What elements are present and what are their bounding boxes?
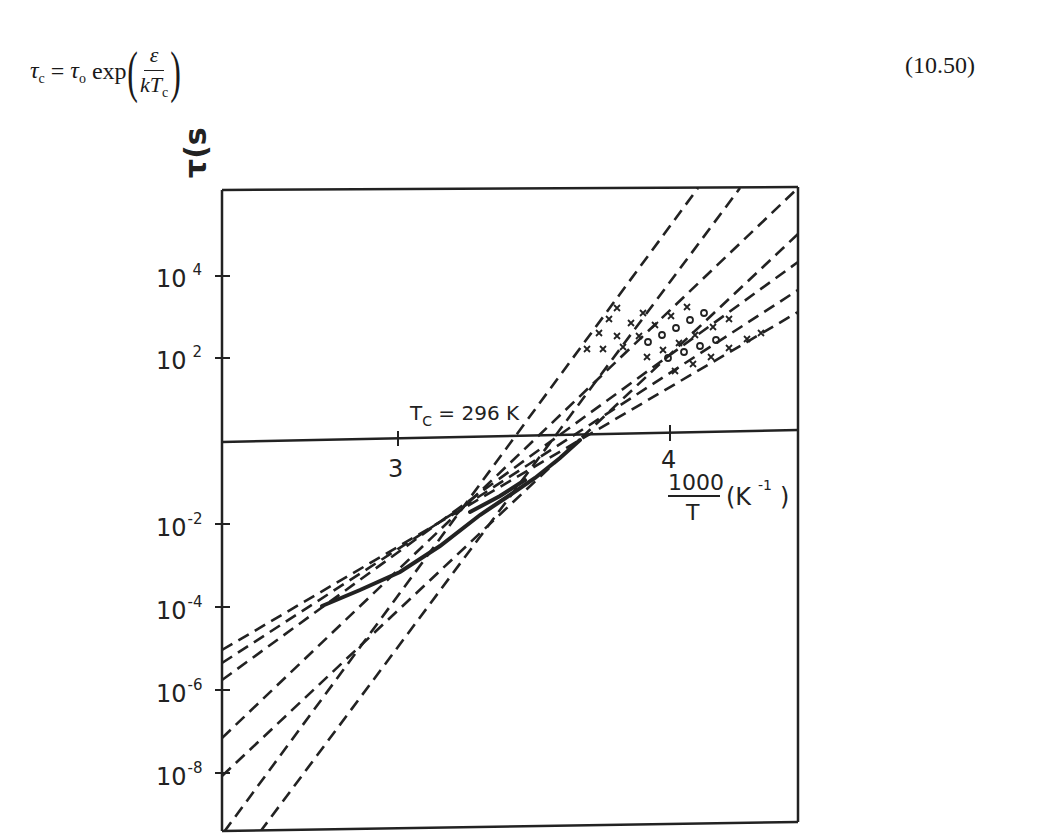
y-axis-label-text: τ(s: [178, 127, 213, 178]
series-line-2: [260, 188, 740, 832]
y-tick-1e4: 104: [156, 261, 202, 293]
plot-frame: [222, 187, 798, 831]
y-tick-1e-4: 10-4: [156, 593, 203, 625]
series-lines: [222, 188, 798, 832]
series-line-4: [222, 234, 798, 776]
y-axis-label: τ(s: [178, 127, 213, 178]
x-label-unit-sup: -1: [758, 477, 772, 493]
tc-annotation: TC = 296 K: [409, 401, 520, 429]
y-tick-1e-6: 10-6: [156, 676, 203, 708]
x-axis-label: 1000 T (K -1 ): [668, 470, 789, 525]
x-label-unit-close: ): [780, 483, 789, 511]
data-markers: [584, 304, 764, 374]
y-tick-1e-2: 10-2: [156, 510, 203, 542]
series-line-3: [222, 188, 798, 738]
chart: τ(s 3 4 1000 T (K -1 ) 104 102 10-2 10-4: [0, 0, 1037, 840]
x-axis-line: [222, 430, 798, 442]
x-label-unit: (K: [726, 483, 752, 511]
y-tick-1e-8: 10-8: [156, 759, 203, 791]
x-tick-label-3: 3: [388, 455, 403, 483]
x-label-numerator: 1000: [668, 470, 724, 495]
y-tick-labels: 104 102 10-2 10-4 10-6 10-8: [156, 261, 203, 791]
x-label-denominator: T: [685, 500, 700, 525]
y-tick-1e2: 102: [156, 343, 202, 375]
